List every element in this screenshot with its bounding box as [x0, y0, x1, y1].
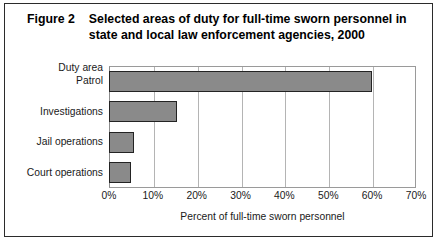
x-axis-tick-labels: 0%10%20%30%40%50%60%70%: [109, 190, 416, 206]
x-tick-label: 50%: [318, 190, 339, 201]
chart-area: Duty area Patrol Investigations Jail ope…: [5, 54, 434, 239]
category-label-court-operations: Court operations: [5, 158, 103, 189]
bar-investigations: [109, 101, 177, 122]
category-axis-labels: Duty area Patrol Investigations Jail ope…: [5, 66, 103, 188]
bars-group: [109, 66, 416, 188]
x-tick-label: 30%: [230, 190, 251, 201]
x-axis-label: Percent of full-time sworn personnel: [109, 211, 416, 222]
x-tick-label: 20%: [186, 190, 207, 201]
bar-jail-operations: [109, 132, 134, 153]
bar-slot: [109, 127, 134, 158]
bar-slot: [109, 158, 131, 189]
x-tick-label: 40%: [274, 190, 295, 201]
figure-number-label: Figure 2: [27, 12, 89, 28]
bar-court-operations: [109, 162, 131, 183]
figure-container: Figure 2 Selected areas of duty for full…: [0, 0, 437, 241]
figure-border: Figure 2 Selected areas of duty for full…: [4, 3, 433, 237]
bar-slot: [109, 66, 372, 97]
x-tick-label: 70%: [406, 190, 427, 201]
x-tick-label: 60%: [362, 190, 383, 201]
bar-slot: [109, 97, 177, 128]
x-tick-label: 10%: [143, 190, 164, 201]
x-tick-label: 0%: [102, 190, 117, 201]
category-label-investigations: Investigations: [5, 97, 103, 128]
figure-title-block: Figure 2 Selected areas of duty for full…: [27, 12, 419, 43]
category-label-jail-operations: Jail operations: [5, 127, 103, 158]
page-title: Selected areas of duty for full-time swo…: [89, 12, 419, 43]
category-label-patrol: Patrol: [5, 66, 103, 97]
bar-patrol: [109, 71, 372, 92]
